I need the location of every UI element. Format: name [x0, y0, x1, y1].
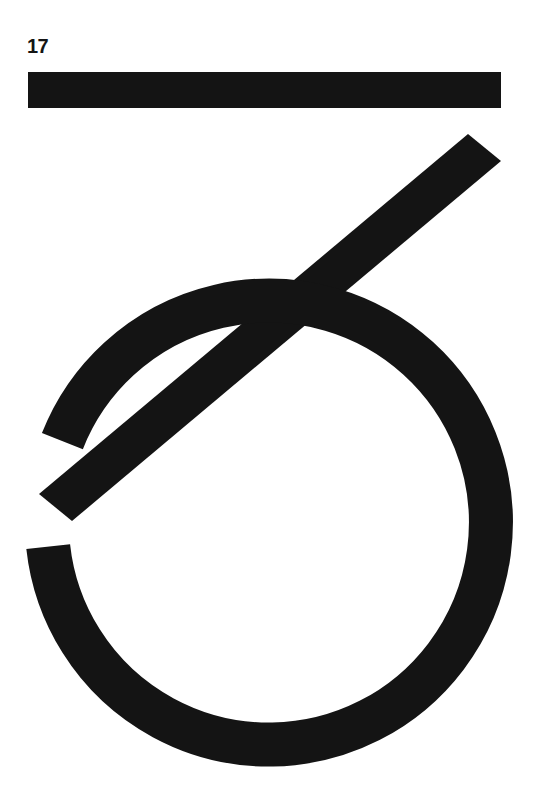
diagonal-bar-shape — [39, 134, 501, 521]
horizontal-bar-shape — [28, 72, 501, 108]
page-canvas: 17 — [0, 0, 545, 786]
artwork-composition — [0, 0, 545, 786]
open-circle-arc-shape — [48, 301, 491, 745]
